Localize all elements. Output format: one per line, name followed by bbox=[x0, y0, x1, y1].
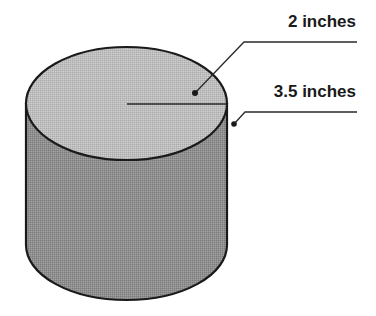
cylinder-diagram: 2 inches 3.5 inches bbox=[0, 0, 376, 316]
bottom-label-leader-line bbox=[234, 112, 357, 124]
top-label-pointer-dot bbox=[192, 90, 198, 96]
top-dimension-label: 2 inches bbox=[288, 13, 356, 30]
bottom-dimension-label: 3.5 inches bbox=[274, 83, 356, 100]
bottom-label-pointer-dot bbox=[231, 121, 237, 127]
